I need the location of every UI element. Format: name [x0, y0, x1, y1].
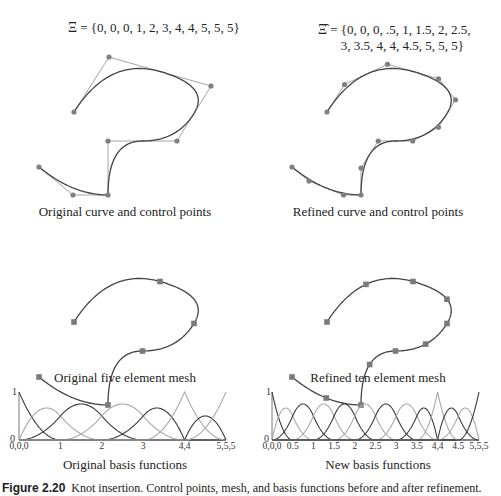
element-boundary-node: [363, 282, 369, 288]
basis-function-curve: [272, 408, 479, 440]
element-boundary-node: [410, 279, 416, 285]
original-basis-y-top: 1: [12, 386, 17, 397]
control-polygon: [292, 64, 456, 195]
basis-function-curve: [19, 392, 226, 440]
original-basis-caption: Original basis functions: [0, 457, 250, 473]
control-polygon: [39, 57, 211, 195]
basis-function-curve: [272, 408, 479, 440]
refined-mesh-caption: Refined ten element mesh: [253, 370, 501, 386]
bspline-curve: [292, 68, 451, 195]
control-point: [341, 192, 346, 197]
basis-function-curve: [19, 392, 226, 440]
refined-mesh-panel: [289, 278, 451, 407]
figure-number: Figure 2.20: [2, 481, 65, 495]
original-mesh-panel: [36, 278, 198, 407]
x-tick-label: 5,5,5: [470, 441, 489, 451]
x-tick-label: 3.5: [411, 441, 423, 451]
control-point: [306, 178, 311, 183]
x-tick-label: 3: [141, 441, 146, 451]
refined-basis-y-top: 1: [266, 386, 271, 397]
original-curve-panel: [36, 54, 213, 197]
control-point: [436, 76, 441, 81]
x-tick-label: 5,5,5: [217, 441, 236, 451]
x-tick-label: 4,4: [179, 441, 191, 451]
control-point: [70, 192, 75, 197]
x-tick-label: 2: [352, 441, 357, 451]
element-boundary-node: [105, 402, 111, 408]
control-point: [105, 192, 110, 197]
control-point: [106, 54, 111, 59]
element-boundary-node: [157, 279, 163, 285]
element-boundary-node: [323, 395, 329, 401]
refined-curve-caption: Refined curve and control points: [253, 204, 501, 220]
figure-caption-text: Knot insertion. Control points, mesh, an…: [71, 481, 481, 495]
control-point: [289, 164, 294, 169]
control-point: [453, 97, 458, 102]
x-tick-label: 3: [394, 441, 399, 451]
element-boundary-node: [444, 296, 450, 302]
original-basis-plot: [19, 392, 226, 440]
figure-caption: Figure 2.20 Knot insertion. Control poin…: [2, 481, 482, 496]
basis-function-curve: [272, 408, 479, 440]
control-point: [342, 82, 347, 87]
x-tick-label: 4,4: [432, 441, 444, 451]
element-boundary-node: [367, 362, 373, 368]
control-point: [385, 62, 390, 67]
control-point: [71, 109, 76, 114]
mesh-curve: [39, 278, 198, 405]
control-point: [105, 138, 110, 143]
original-mesh-caption: Original five element mesh: [0, 370, 250, 386]
original-curve-caption: Original curve and control points: [0, 204, 250, 220]
x-tick-label: 0.5: [287, 441, 299, 451]
element-boundary-node: [324, 319, 330, 325]
x-tick-label: 4.5: [452, 441, 464, 451]
x-tick-label: 0,0,0: [263, 441, 282, 451]
basis-function-curve: [19, 392, 226, 440]
x-tick-label: 2: [99, 441, 104, 451]
element-boundary-node: [71, 319, 77, 325]
control-point: [174, 138, 179, 143]
element-boundary-node: [191, 321, 197, 327]
refined-basis-caption: New basis functions: [253, 457, 501, 473]
element-boundary-node: [444, 321, 450, 327]
x-tick-label: 1: [311, 441, 316, 451]
control-point: [36, 164, 41, 169]
control-point: [358, 165, 363, 170]
x-tick-label: 1: [58, 441, 63, 451]
element-boundary-node: [393, 348, 399, 354]
x-tick-label: 2.5: [370, 441, 382, 451]
x-tick-label: 0,0,0: [10, 441, 29, 451]
refined-basis-plot: [272, 392, 479, 440]
bspline-curve: [39, 68, 198, 195]
refined-curve-panel: [289, 62, 458, 198]
control-point: [358, 192, 363, 197]
control-point: [208, 83, 213, 88]
control-point: [376, 138, 381, 143]
basis-function-curve: [272, 408, 479, 440]
element-boundary-node: [423, 341, 429, 347]
control-point: [436, 125, 441, 130]
element-boundary-node: [140, 348, 146, 354]
control-point: [410, 138, 415, 143]
x-tick-label: 1.5: [328, 441, 340, 451]
control-point: [324, 109, 329, 114]
